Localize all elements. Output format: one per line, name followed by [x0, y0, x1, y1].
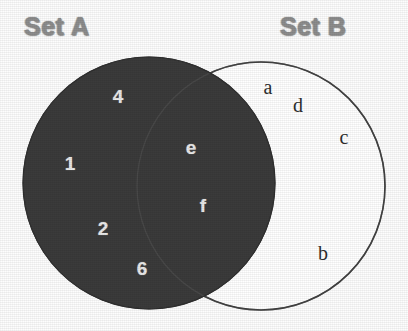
element-b-only: b [318, 243, 328, 263]
element-a-only: 1 [65, 154, 76, 173]
element-b-only: a [264, 77, 273, 97]
venn-diagram-figure: Set A Set B 4 1 2 6 e f a d c b [0, 0, 408, 331]
element-a-only: 4 [113, 87, 124, 106]
element-a-only: 2 [98, 219, 109, 238]
element-b-only: d [293, 95, 303, 115]
element-intersection: e [186, 138, 197, 157]
element-a-only: 6 [137, 259, 148, 278]
set-a-circle [23, 57, 275, 309]
element-intersection: f [200, 196, 206, 215]
element-b-only: c [340, 127, 349, 147]
venn-circles [0, 0, 408, 331]
set-b-title: Set B [280, 12, 346, 41]
set-a-title: Set A [24, 12, 89, 41]
